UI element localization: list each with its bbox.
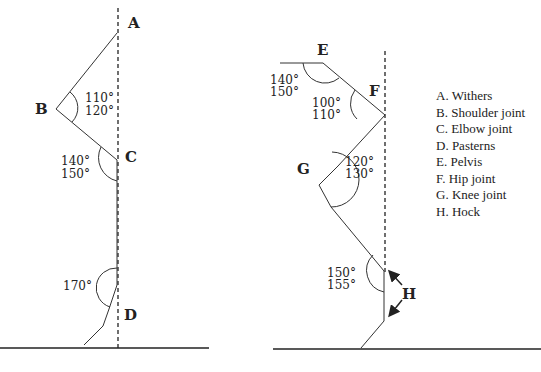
- legend-item: A. Withers: [436, 88, 525, 105]
- legend-item: E. Pelvis: [436, 154, 525, 171]
- forelimb: A B C D 110° 120° 140° 150° 170°: [0, 8, 209, 348]
- shoulder-angle-min: 110°: [85, 91, 114, 105]
- point-label-a: A: [127, 14, 140, 32]
- knee-angle-max: 130°: [345, 167, 374, 181]
- legend-item: G. Knee joint: [436, 187, 525, 204]
- hock-angle-max: 155°: [327, 278, 356, 292]
- legend: A. Withers B. Shoulder joint C. Elbow jo…: [436, 88, 525, 220]
- forelimb-line: [56, 33, 117, 345]
- fetlock-angle-arc: [96, 268, 117, 307]
- point-label-c: C: [125, 148, 137, 166]
- shoulder-angle-max: 120°: [85, 104, 114, 118]
- hock-arrow-up: [390, 272, 402, 285]
- elbow-angle-max: 150°: [61, 167, 90, 181]
- hip-angle-max: 110°: [312, 108, 341, 122]
- pelvis-angle-max: 150°: [270, 85, 299, 99]
- hock-arrow-down: [390, 300, 402, 315]
- legend-item: F. Hip joint: [436, 171, 525, 188]
- point-label-b: B: [35, 100, 48, 118]
- pelvis-angle-arc: [303, 63, 339, 83]
- point-label-d: D: [124, 306, 137, 324]
- legend-item: C. Elbow joint: [436, 121, 525, 138]
- legend-item: B. Shoulder joint: [436, 105, 525, 122]
- fetlock-angle: 170°: [63, 279, 92, 293]
- legend-item: H. Hock: [436, 204, 525, 221]
- point-label-e: E: [317, 41, 328, 59]
- point-label-f: F: [369, 82, 380, 100]
- shoulder-angle-arc: [70, 92, 78, 122]
- elbow-angle-min: 140°: [61, 154, 90, 168]
- point-label-g: G: [297, 160, 310, 178]
- point-label-h: H: [402, 285, 416, 303]
- legend-item: D. Pasterns: [436, 138, 525, 155]
- hip-angle-arc: [350, 90, 357, 119]
